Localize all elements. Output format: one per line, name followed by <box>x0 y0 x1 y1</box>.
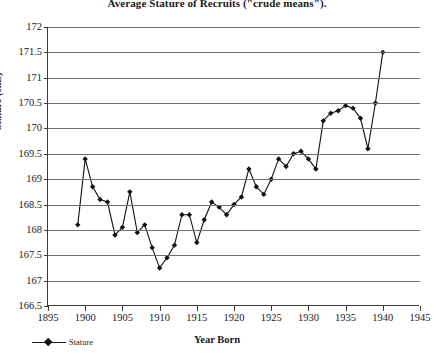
x-axis-tick <box>197 306 198 311</box>
y-axis-tick-label: 169.5 <box>0 149 42 159</box>
y-axis-tick-label: 167 <box>0 276 42 286</box>
gridline <box>48 52 420 53</box>
y-axis-tick <box>44 179 48 180</box>
y-axis-tick <box>44 103 48 104</box>
y-axis-tick-label: 171 <box>0 73 42 83</box>
plot-area: 1895190019051910191519201925193019351940… <box>47 27 419 306</box>
y-axis-tick-label: 168 <box>0 225 42 235</box>
x-axis-tick <box>122 306 123 311</box>
chart-title: Average Stature of Recruits ("crude mean… <box>0 0 434 9</box>
data-point-marker <box>246 166 251 171</box>
y-axis-tick <box>44 255 48 256</box>
x-axis-tick <box>48 306 49 311</box>
y-axis-tick-label: 168.5 <box>0 200 42 210</box>
data-point-marker <box>83 156 88 161</box>
x-axis-tick <box>234 306 235 311</box>
x-axis-tick <box>383 306 384 311</box>
data-point-marker <box>127 189 132 194</box>
legend-line-icon <box>32 342 66 343</box>
y-axis-tick-label: 169 <box>0 174 42 184</box>
y-axis-tick <box>44 154 48 155</box>
y-axis-tick-label: 171.5 <box>0 47 42 57</box>
data-point-marker <box>187 212 192 217</box>
y-axis-tick <box>44 52 48 53</box>
diamond-marker-icon <box>44 338 53 347</box>
data-point-marker <box>179 212 184 217</box>
y-axis-tick-label: 170.5 <box>0 98 42 108</box>
x-axis-tick <box>420 306 421 311</box>
y-axis-tick <box>44 281 48 282</box>
x-axis-tick <box>271 306 272 311</box>
data-point-marker <box>194 240 199 245</box>
data-point-marker <box>97 197 102 202</box>
gridline <box>48 255 420 256</box>
y-axis-tick-label: 166.5 <box>0 301 42 311</box>
gridline <box>48 179 420 180</box>
y-axis-tick-label: 167.5 <box>0 250 42 260</box>
series-line <box>78 52 383 268</box>
legend-label-stature: Stature <box>69 337 93 347</box>
data-point-marker <box>202 217 207 222</box>
gridline-top <box>48 27 420 28</box>
x-axis-tick <box>160 306 161 311</box>
data-point-marker <box>75 222 80 227</box>
series-stature <box>48 27 420 306</box>
gridline <box>48 205 420 206</box>
y-axis-tick <box>44 205 48 206</box>
gridline <box>48 78 420 79</box>
y-axis-tick <box>44 128 48 129</box>
gridline <box>48 281 420 282</box>
data-point-marker <box>365 146 370 151</box>
x-axis-tick-label: 1945 <box>397 312 434 323</box>
chart-container: Average Stature of Recruits ("crude mean… <box>0 0 434 359</box>
chart-legend: Stature <box>32 337 93 347</box>
gridline <box>48 128 420 129</box>
x-axis-tick <box>308 306 309 311</box>
x-axis-tick <box>346 306 347 311</box>
data-point-marker <box>90 184 95 189</box>
gridline <box>48 154 420 155</box>
y-axis-tick <box>44 78 48 79</box>
y-axis-tick <box>44 230 48 231</box>
gridline <box>48 230 420 231</box>
x-axis-tick <box>85 306 86 311</box>
y-axis-tick-label: 170 <box>0 123 42 133</box>
data-point-marker <box>149 245 154 250</box>
data-point-marker <box>172 242 177 247</box>
gridline <box>48 103 420 104</box>
y-axis-tick-label: 172 <box>0 22 42 32</box>
